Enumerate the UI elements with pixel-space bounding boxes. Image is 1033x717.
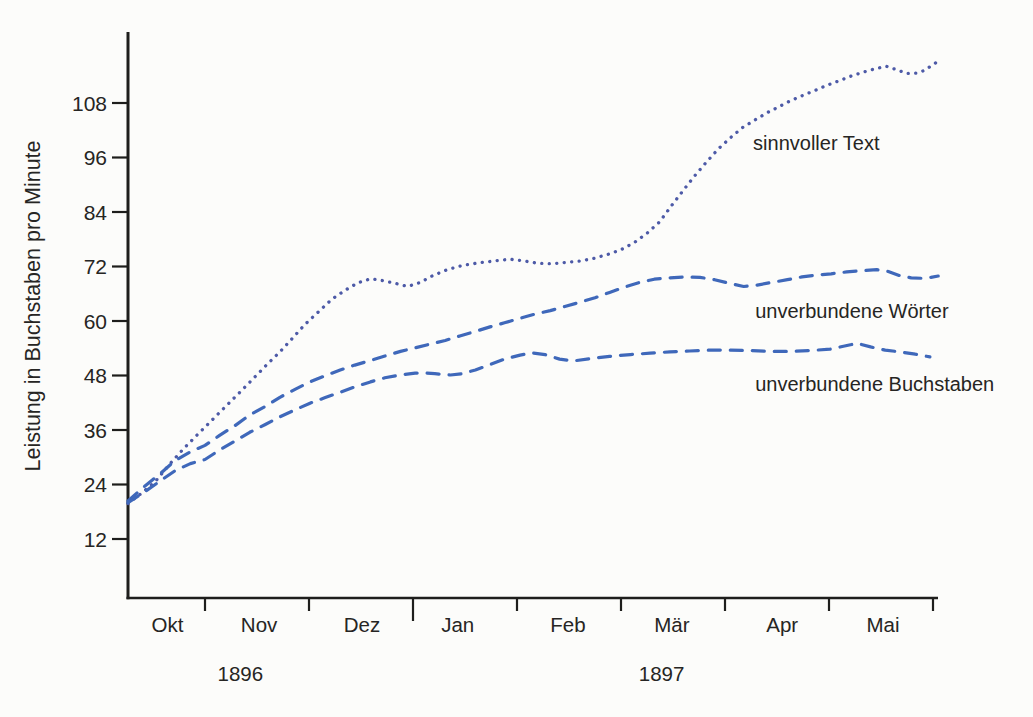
y-tick-label: 108 <box>72 92 107 115</box>
y-tick-label: 60 <box>84 310 107 333</box>
x-tick-label-okt: Okt <box>152 613 184 636</box>
scanned-figure-page: 1224364860728496108OktNovDezJanFebMärApr… <box>0 0 1033 717</box>
year-label-1897: 1897 <box>639 662 685 685</box>
year-label-1896: 1896 <box>218 662 264 685</box>
y-tick-label: 12 <box>84 528 107 551</box>
series-label-sinnvoller-text: sinnvoller Text <box>753 132 880 154</box>
y-tick-label: 48 <box>84 364 107 387</box>
series-label-unverbundene-w-rter: unverbundene Wörter <box>755 300 949 322</box>
y-axis-title: Leistung in Buchstaben pro Minute <box>21 140 45 471</box>
series-curve-unverbundene-buchstaben <box>128 343 930 502</box>
y-tick-label: 24 <box>84 473 108 496</box>
x-tick-label-dez: Dez <box>344 613 380 636</box>
y-tick-label: 72 <box>84 255 107 278</box>
x-tick-label-mai: Mai <box>867 613 900 636</box>
x-tick-label-m-r: Mär <box>654 613 689 636</box>
y-tick-label: 96 <box>84 146 107 169</box>
x-tick-label-feb: Feb <box>550 613 585 636</box>
series-label-unverbundene-buchstaben: unverbundene Buchstaben <box>755 373 994 395</box>
y-tick-label: 36 <box>84 419 107 442</box>
series-curve-sinnvoller-text <box>128 61 938 503</box>
learning-curves-chart: 1224364860728496108OktNovDezJanFebMärApr… <box>0 0 1033 717</box>
x-tick-label-jan: Jan <box>441 613 474 636</box>
x-tick-label-nov: Nov <box>241 613 278 636</box>
x-tick-label-apr: Apr <box>766 613 798 636</box>
y-tick-label: 84 <box>84 201 108 224</box>
